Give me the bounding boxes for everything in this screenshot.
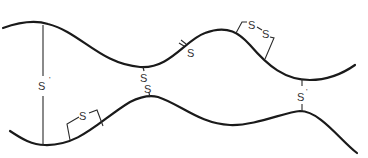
top-loop-s2: S bbox=[262, 28, 269, 40]
top-s-tick-2 bbox=[179, 43, 184, 46]
right-interchain-prime: ' bbox=[306, 87, 308, 96]
bottom-polypeptide-chain bbox=[10, 96, 357, 153]
top-loop-s1: S bbox=[248, 19, 255, 31]
center-s-bottom: S bbox=[144, 83, 151, 95]
top-s-tick-1 bbox=[181, 40, 186, 44]
left-interchain-s-label: S bbox=[38, 80, 45, 92]
left-interchain-prime: ' bbox=[49, 75, 51, 84]
bottom-loop-s: S bbox=[79, 110, 86, 122]
top-single-s: S bbox=[187, 47, 194, 59]
right-interchain-s-label: S bbox=[297, 91, 304, 103]
disulfide-bond-diagram: S ' S S S S S S ' S bbox=[0, 0, 368, 158]
top-loop-bracket-right bbox=[265, 37, 274, 59]
top-loop-bracket-left bbox=[236, 22, 247, 33]
top-polypeptide-chain bbox=[3, 22, 355, 80]
